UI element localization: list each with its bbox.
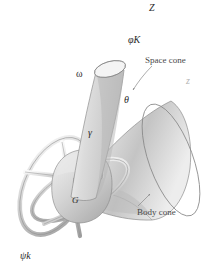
gyroscope-figure: Z φK ω Space cone z θ γ G Body cone ψk [0, 0, 203, 266]
label-axis-Z: Z [149, 3, 155, 13]
label-angle-gamma: γ [88, 128, 92, 138]
figure-canvas [0, 0, 203, 266]
label-angle-theta: θ [124, 95, 129, 105]
label-angular-velocity: ω [76, 69, 83, 79]
label-center-of-mass: G [72, 196, 79, 205]
label-space-cone: Space cone [145, 56, 186, 65]
label-spin-vector: ψk [20, 251, 31, 261]
label-axis-z-body: z [186, 76, 190, 86]
leader-space-cone [133, 66, 152, 90]
label-precession-vector: φK [128, 35, 140, 45]
label-body-cone: Body cone [137, 208, 176, 217]
